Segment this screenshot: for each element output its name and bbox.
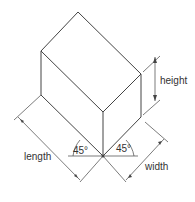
height-arrow-bottom: [153, 95, 157, 101]
width-ext-left: [103, 156, 126, 182]
height-label: height: [160, 75, 187, 86]
width-label: width: [144, 161, 168, 172]
length-ext-bottom: [80, 156, 103, 182]
length-ext-top: [14, 95, 41, 120]
angle-left-label: 45°: [73, 145, 88, 156]
height-ext-top: [143, 56, 160, 72]
width-ext-right: [145, 122, 168, 142]
box-outline: [41, 12, 141, 156]
width-dimension: [126, 139, 164, 180]
top-face: [41, 12, 141, 112]
angle-right-label: 45°: [116, 143, 131, 154]
height-arrow-top: [153, 57, 157, 63]
isometric-box-diagram: height length width 45° 45°: [0, 0, 195, 202]
length-label: length: [24, 151, 51, 162]
left-bottom-edge: [41, 95, 103, 156]
height-ext-bottom: [143, 100, 160, 115]
origin-dot: [102, 155, 105, 158]
diagram-canvas: height length width 45° 45°: [0, 0, 195, 202]
length-dimension: [18, 117, 80, 180]
